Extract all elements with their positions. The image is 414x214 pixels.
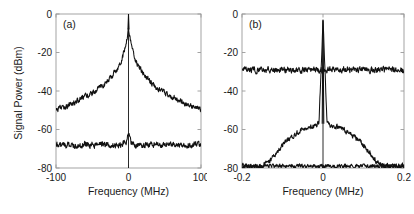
svg-text:Frequency (MHz): Frequency (MHz) — [88, 185, 169, 197]
svg-text:-80: -80 — [38, 163, 53, 174]
panel-b: -0.200.20-20-40-60-80(b)Frequency (MHz) — [207, 0, 414, 214]
svg-text:(a): (a) — [63, 18, 76, 30]
svg-text:0.2: 0.2 — [397, 172, 411, 183]
svg-text:0: 0 — [46, 9, 52, 20]
svg-text:0: 0 — [126, 172, 132, 183]
panel-a: -10001000-20-40-60-80(a)Frequency (MHz) — [0, 0, 207, 214]
svg-text:(b): (b) — [249, 18, 262, 30]
svg-text:100: 100 — [193, 172, 207, 183]
svg-text:0: 0 — [232, 9, 238, 20]
figure-container: Signal Power (dBm) -10001000-20-40-60-80… — [0, 0, 414, 214]
svg-text:-0.2: -0.2 — [233, 172, 251, 183]
svg-text:0: 0 — [320, 172, 326, 183]
svg-text:-20: -20 — [38, 47, 53, 58]
svg-text:Frequency (MHz): Frequency (MHz) — [282, 185, 363, 197]
svg-text:-20: -20 — [224, 47, 239, 58]
svg-text:-40: -40 — [224, 86, 239, 97]
svg-text:-60: -60 — [38, 124, 53, 135]
svg-text:-80: -80 — [224, 163, 239, 174]
svg-text:-60: -60 — [224, 124, 239, 135]
svg-text:-40: -40 — [38, 86, 53, 97]
svg-text:-100: -100 — [46, 172, 66, 183]
panel-b-axes: -0.200.20-20-40-60-80(b)Frequency (MHz) — [207, 0, 414, 214]
panel-a-axes: -10001000-20-40-60-80(a)Frequency (MHz) — [0, 0, 207, 214]
